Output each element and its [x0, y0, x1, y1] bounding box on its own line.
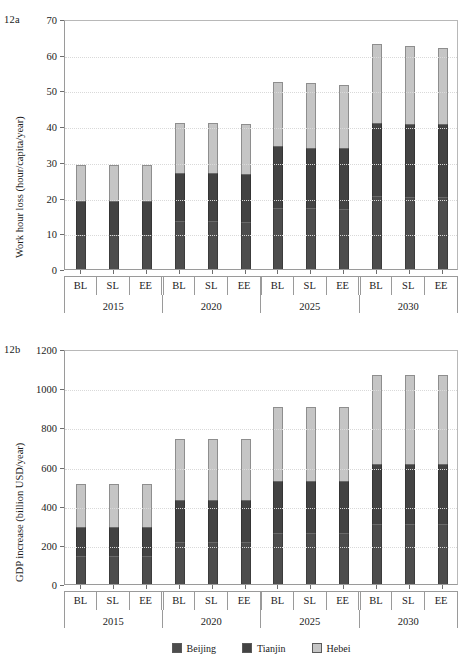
- y-tick-mark: [60, 468, 64, 469]
- bar-segment: [142, 556, 152, 584]
- bar-segment: [306, 208, 316, 269]
- x-category-label: BL: [360, 276, 393, 295]
- y-tick-label: 70: [47, 15, 58, 26]
- legend-swatch: [242, 643, 252, 653]
- y-axis-title-12a: Work hour loss (hour/capita/year): [14, 116, 25, 258]
- y-tick-label: 400: [41, 501, 57, 512]
- y-tick-mark: [60, 546, 64, 547]
- bar-stack: [339, 407, 349, 584]
- gridline: [65, 547, 457, 548]
- x-tick-mark: [245, 270, 246, 274]
- x-category-label: BL: [163, 591, 196, 610]
- bar-segment: [372, 123, 382, 196]
- bar-segment: [273, 82, 283, 146]
- bar-segment: [142, 527, 152, 555]
- bar-segment: [142, 201, 152, 235]
- x-category-label: EE: [130, 276, 163, 295]
- bar-stack: [438, 375, 448, 584]
- y-tick-label: 200: [41, 540, 57, 551]
- bar-segment: [339, 209, 349, 269]
- x-category-label: BL: [64, 591, 97, 610]
- bar-segment: [142, 484, 152, 527]
- x-category-label: SL: [195, 591, 228, 610]
- x-tick-mark: [442, 585, 443, 589]
- x-category-label: EE: [327, 591, 360, 610]
- bar-segment: [273, 407, 283, 481]
- y-tick-mark: [60, 270, 64, 271]
- y-tick-mark: [60, 389, 64, 390]
- x-category-label: SL: [392, 276, 425, 295]
- x-category-label: BL: [64, 276, 97, 295]
- x-tick-mark: [376, 270, 377, 274]
- x-group-label: 2020: [163, 295, 262, 313]
- bar-stack: [76, 165, 86, 269]
- bar-segment: [273, 533, 283, 585]
- y-tick-mark: [60, 234, 64, 235]
- legend-swatch: [172, 643, 182, 653]
- x-tick-mark: [409, 270, 410, 274]
- x-category-label: BL: [360, 591, 393, 610]
- plot-area-12b: [64, 350, 458, 585]
- bar-segment: [405, 197, 415, 270]
- bar-stack: [142, 484, 152, 584]
- bar-segment: [76, 556, 86, 584]
- x-category-label: EE: [228, 276, 261, 295]
- bar-segment: [109, 165, 119, 201]
- bar-segment: [438, 375, 448, 463]
- y-tick-mark: [60, 428, 64, 429]
- x-tick-mark: [409, 585, 410, 589]
- x-tick-mark: [310, 270, 311, 274]
- bar-segment: [273, 208, 283, 269]
- bar-segment: [109, 201, 119, 235]
- y-tick-mark: [60, 350, 64, 351]
- x-tick-mark: [277, 270, 278, 274]
- x-group-label: 2025: [261, 295, 360, 313]
- x-tick-mark: [80, 585, 81, 589]
- x-category-label: BL: [163, 276, 196, 295]
- y-tick-label: 800: [41, 423, 57, 434]
- x-group-label: 2015: [64, 295, 163, 313]
- bar-segment: [175, 542, 185, 584]
- bar-segment: [438, 524, 448, 584]
- bar-segment: [372, 375, 382, 463]
- bar-segment: [208, 500, 218, 542]
- bar-segment: [76, 165, 86, 201]
- gridline: [65, 390, 457, 391]
- bar-segment: [241, 542, 251, 584]
- bar-stack: [405, 375, 415, 584]
- x-category-label: EE: [228, 591, 261, 610]
- bar-segment: [273, 146, 283, 208]
- bar-segment: [405, 464, 415, 524]
- category-band: BLSLEEBLSLEEBLSLEEBLSLEE: [64, 591, 458, 610]
- bar-stack: [273, 82, 283, 269]
- bar-segment: [405, 124, 415, 196]
- bar-segment: [142, 165, 152, 201]
- x-tick-mark: [376, 585, 377, 589]
- legend-label: Tianjin: [257, 643, 286, 654]
- y-tick-label: 50: [47, 86, 58, 97]
- x-category-label: BL: [261, 276, 294, 295]
- legend-label: Beijing: [187, 643, 216, 654]
- figure-root: 12a Work hour loss (hour/capita/year) 70…: [0, 0, 471, 663]
- gridline: [65, 164, 457, 165]
- x-category-label: EE: [425, 276, 458, 295]
- bar-segment: [405, 375, 415, 463]
- bar-segment: [372, 196, 382, 269]
- bar-segment: [241, 500, 251, 542]
- bar-stack: [241, 439, 251, 584]
- bar-segment: [175, 500, 185, 542]
- x-tick-mark: [245, 585, 246, 589]
- bar-segment: [76, 235, 86, 269]
- gridline: [65, 200, 457, 201]
- y-tick-label: 1200: [36, 345, 57, 356]
- gridline: [65, 469, 457, 470]
- bar-segment: [208, 542, 218, 584]
- bar-segment: [438, 124, 448, 196]
- bar-segment: [175, 123, 185, 173]
- x-tick-mark: [113, 270, 114, 274]
- x-tick-mark: [80, 270, 81, 274]
- bar-segment: [372, 524, 382, 584]
- bar-stack: [273, 407, 283, 584]
- y-tick-mark: [60, 127, 64, 128]
- bar-stack: [372, 375, 382, 584]
